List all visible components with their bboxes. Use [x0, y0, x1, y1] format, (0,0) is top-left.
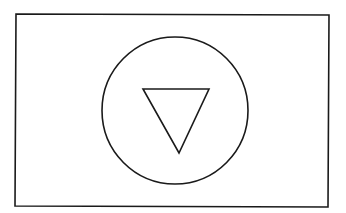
downward-triangle-shape — [143, 89, 209, 153]
circle-shape — [102, 37, 248, 184]
diagram-canvas — [0, 0, 346, 213]
outer-frame — [15, 14, 329, 207]
